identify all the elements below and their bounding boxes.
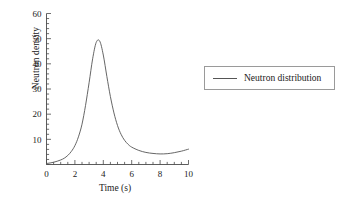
x-tick-label: 6 [129, 169, 134, 179]
x-tick-label: 2 [73, 169, 78, 179]
figure-container: 0246810 102030405060 Neutron density Tim… [0, 0, 347, 205]
chart-legend: Neutron distribution [204, 66, 335, 90]
x-tick-label: 4 [101, 169, 106, 179]
x-tick-label: 8 [158, 169, 163, 179]
y-axis-ticks [47, 14, 52, 165]
y-axis-title-text: Neutron density [31, 13, 41, 103]
series-line-neutron-distribution [47, 40, 189, 164]
legend-entry-label: Neutron distribution [244, 73, 321, 83]
legend-entry: Neutron distribution [205, 67, 334, 89]
x-axis-tick-labels: 0246810 [44, 169, 193, 179]
x-axis-title: Time (s) [72, 183, 158, 193]
chart-plot-area: 0246810 102030405060 [0, 0, 347, 205]
y-tick-label: 20 [33, 109, 43, 119]
axis-lines [47, 14, 189, 165]
x-tick-label: 10 [184, 169, 194, 179]
y-tick-label: 10 [33, 135, 43, 145]
x-axis-ticks [47, 160, 189, 165]
x-tick-label: 0 [44, 169, 49, 179]
legend-line-swatch [213, 78, 237, 79]
data-series-group [47, 40, 189, 164]
